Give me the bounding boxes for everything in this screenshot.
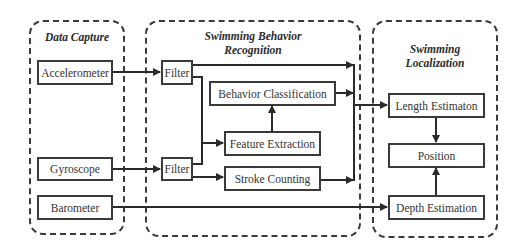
group-title-data-capture: Data Capture [31, 31, 123, 44]
node-position: Position [388, 143, 485, 168]
node-depth-estimation: Depth Estimation [388, 195, 485, 220]
group-swimming-behavior-recognition: Swimming Behavior Recognition [145, 20, 361, 237]
node-stroke-counting: Stroke Counting [224, 166, 321, 191]
node-filter-1: Filter [161, 60, 193, 85]
node-filter-2: Filter [161, 157, 193, 181]
node-length-estimation: Length Estimaton [388, 93, 485, 118]
group-title-behavior-recognition-line1: Swimming Behavior [147, 30, 359, 43]
group-title-behavior-recognition-line2: Recognition [147, 44, 359, 57]
node-barometer: Barometer [37, 195, 113, 220]
node-behavior-classification: Behavior Classification [209, 81, 336, 106]
group-title-localization-line2: Localization [374, 57, 496, 70]
group-title-localization-line1: Swimming [374, 43, 496, 56]
node-gyroscope: Gyroscope [37, 157, 113, 181]
node-feature-extraction: Feature Extraction [224, 131, 321, 156]
node-accelerometer: Accelerometer [37, 60, 113, 85]
